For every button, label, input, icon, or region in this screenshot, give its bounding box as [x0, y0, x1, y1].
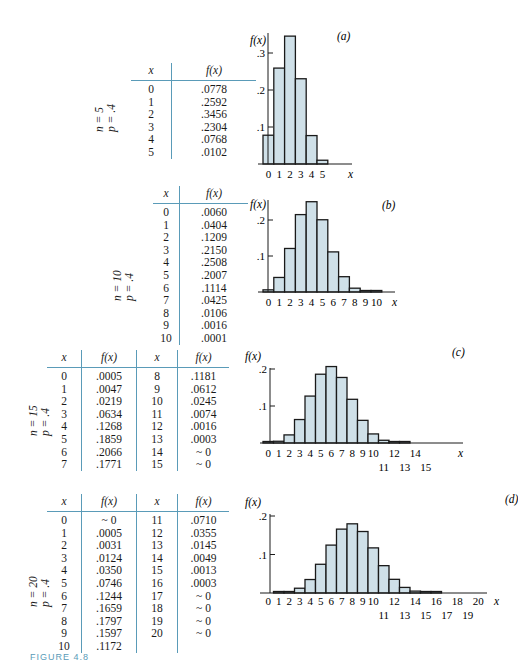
x-tick-label: 19 — [462, 609, 474, 621]
x-tick-label: 3 — [298, 168, 304, 180]
histogram-bar — [305, 580, 316, 593]
histogram-bar — [285, 248, 296, 292]
y-tick-label: .1 — [259, 400, 267, 412]
x-tick-label: 7 — [339, 595, 345, 607]
x-tick-label: 6 — [329, 595, 335, 607]
x-axis-label: x — [457, 447, 464, 459]
histogram-bar — [400, 587, 411, 593]
histogram-bar — [317, 220, 328, 292]
x-tick-label: 4 — [308, 447, 314, 459]
histogram-bar — [274, 68, 285, 164]
x-tick-label: 6 — [329, 447, 335, 459]
x-tick-label: 15 — [420, 461, 432, 473]
x-tick-label: 2 — [287, 595, 293, 607]
x-tick-label: 10 — [371, 296, 383, 308]
x-tick-label: 4 — [308, 595, 314, 607]
x-tick-label: 0 — [266, 168, 272, 180]
histogram-bar — [347, 399, 358, 443]
x-tick-label: 12 — [389, 447, 400, 459]
x-tick-label: 4 — [309, 296, 315, 308]
x-tick-label: 4 — [309, 168, 315, 180]
histogram-bar — [358, 532, 369, 593]
histogram-bar — [368, 434, 379, 443]
histogram-bar — [379, 566, 390, 593]
x-axis-label: x — [391, 296, 398, 308]
figure-caption: FIGURE 4.8 — [30, 652, 89, 662]
histogram-bar — [328, 252, 339, 292]
histogram-c: .1.20123456789101112131415xf(x)(c) — [245, 346, 465, 473]
histogram-bar — [284, 435, 295, 443]
x-tick-label: 3 — [297, 595, 303, 607]
histogram-bar — [274, 277, 285, 292]
y-tick-label: .2 — [259, 363, 267, 375]
x-tick-label: 6 — [330, 296, 336, 308]
x-tick-label: 13 — [399, 609, 411, 621]
panel-label: (a) — [337, 30, 351, 43]
y-axis-label: f(x) — [250, 198, 266, 211]
histogram-bar — [339, 277, 350, 292]
x-tick-label: 17 — [441, 609, 453, 621]
x-tick-label: 0 — [266, 447, 272, 459]
histogram-bar — [285, 36, 296, 164]
x-tick-label: 10 — [368, 447, 380, 459]
x-tick-label: 13 — [399, 461, 411, 473]
y-tick-label: .1 — [257, 121, 265, 133]
x-tick-label: 1 — [276, 447, 282, 459]
y-tick-label: .1 — [259, 549, 267, 561]
histogram-b: .1.2012345678910xf(x)(b) — [250, 198, 398, 308]
panel-label: (b) — [382, 199, 396, 212]
x-tick-label: 3 — [298, 296, 304, 308]
x-tick-label: 8 — [350, 447, 356, 459]
x-tick-label: 16 — [431, 595, 443, 607]
y-tick-label: .2 — [257, 214, 265, 226]
x-tick-label: 2 — [287, 168, 293, 180]
x-tick-label: 0 — [266, 595, 272, 607]
x-tick-label: 3 — [297, 447, 303, 459]
x-tick-label: 10 — [368, 595, 380, 607]
x-tick-label: 5 — [318, 595, 324, 607]
y-tick-label: .2 — [259, 510, 267, 522]
y-tick-label: .3 — [257, 47, 266, 59]
x-tick-label: 5 — [320, 168, 326, 180]
histogram-bar — [316, 374, 327, 443]
x-tick-label: 8 — [352, 296, 358, 308]
x-tick-label: 9 — [360, 595, 366, 607]
histogram-bar — [368, 548, 379, 593]
x-tick-label: 1 — [276, 296, 282, 308]
histogram-bar — [295, 79, 306, 164]
y-tick-label: .2 — [257, 84, 265, 96]
x-tick-label: 7 — [341, 296, 347, 308]
histogram-bar — [306, 136, 317, 164]
y-tick-label: .1 — [257, 250, 265, 262]
histogram-bar — [295, 215, 306, 292]
x-tick-label: 1 — [276, 168, 282, 180]
y-axis-label: f(x) — [245, 496, 261, 509]
x-tick-label: 20 — [473, 595, 485, 607]
x-tick-label: 8 — [350, 595, 356, 607]
y-axis-label: f(x) — [250, 34, 266, 47]
x-tick-label: 2 — [287, 447, 293, 459]
histogram-bar — [305, 396, 316, 443]
x-tick-label: 5 — [320, 296, 326, 308]
histogram-bar — [295, 420, 306, 443]
x-tick-label: 9 — [363, 296, 369, 308]
x-tick-label: 7 — [339, 447, 345, 459]
histogram-bar — [349, 288, 360, 292]
panel-label: (d) — [505, 493, 518, 506]
x-tick-label: 14 — [410, 595, 422, 607]
x-tick-label: 14 — [410, 447, 422, 459]
x-tick-label: 11 — [378, 461, 389, 473]
histogram-bar — [306, 202, 317, 292]
histogram-bar — [347, 524, 358, 593]
histogram-bar — [337, 377, 348, 443]
x-tick-label: 12 — [389, 595, 400, 607]
histogram-a: .1.2.3012345xf(x)(a) — [250, 30, 354, 180]
x-tick-label: 5 — [318, 447, 324, 459]
x-tick-label: 1 — [276, 595, 282, 607]
histogram-bar — [317, 160, 328, 164]
histogram-bar — [389, 579, 400, 593]
histogram-bar — [337, 529, 348, 593]
x-axis-label: x — [493, 595, 500, 607]
x-tick-label: 0 — [266, 296, 272, 308]
histograms: .1.2.3012345xf(x)(a) .1.2012345678910xf(… — [0, 0, 518, 662]
